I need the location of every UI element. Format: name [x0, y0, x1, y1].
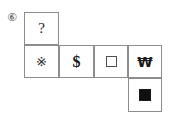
dollar-sign-icon: $: [73, 54, 81, 70]
net-cell-open-square[interactable]: [94, 45, 128, 78]
net-cell-snowflake[interactable]: ※: [24, 45, 59, 78]
question-number-badge: ⑥: [5, 11, 19, 25]
open-square-icon: [106, 56, 117, 67]
snowflake-icon: ※: [36, 55, 47, 68]
net-cell-won[interactable]: ₩: [128, 45, 162, 78]
net-cell-filled-square[interactable]: [128, 78, 162, 112]
question-mark-glyph: ?: [38, 21, 45, 36]
won-sign-icon: ₩: [137, 55, 152, 69]
net-cell-dollar[interactable]: $: [59, 45, 94, 78]
net-cell-unknown[interactable]: ?: [24, 12, 59, 45]
filled-square-icon: [139, 89, 151, 101]
cube-net-grid: ? ※ $ ₩: [24, 12, 162, 112]
cube-net-puzzle: ⑥ ? ※ $ ₩: [0, 0, 169, 123]
